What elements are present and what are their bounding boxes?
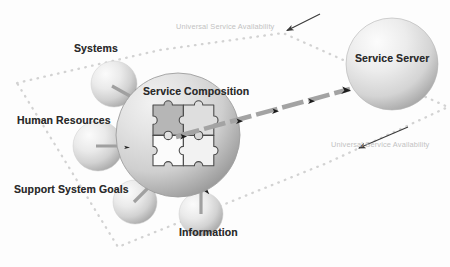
diagram-canvas: Systems Human Resources Support System G… xyxy=(0,0,450,267)
input-label-systems: Systems xyxy=(74,42,118,54)
service-composition-label: Service Composition xyxy=(143,85,249,97)
annotation-leader-top xyxy=(287,14,320,31)
annotation-label-top: Universal Service Availability xyxy=(176,22,274,31)
input-label-information: Information xyxy=(179,226,238,238)
input-label-support-system-goals: Support System Goals xyxy=(14,183,129,195)
service-server-sphere xyxy=(346,18,438,110)
annotation-label-bottom: Universal Service Availability xyxy=(331,140,429,149)
input-label-human-resources: Human Resources xyxy=(17,114,111,126)
service-server-label: Service Server xyxy=(355,52,429,64)
